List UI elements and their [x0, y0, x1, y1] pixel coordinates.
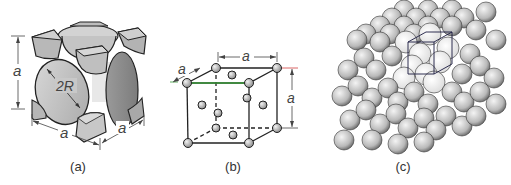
panel-b: a a a (b) [170, 0, 340, 185]
caption-b: (b) [225, 159, 241, 174]
caption-a: (a) [70, 159, 86, 174]
caption-c: (c) [395, 159, 410, 174]
edge-label-right: a [287, 90, 295, 106]
atoms [183, 64, 282, 148]
edge-label-front: a [60, 124, 68, 141]
panel-a: 2R a a a (a) [0, 0, 170, 185]
panel-c: (c) [330, 0, 511, 185]
edge-label-depth: a [178, 61, 186, 77]
edge-label-vertical: a [13, 62, 21, 79]
sphere-rows [332, 0, 506, 154]
reduced-sphere-unit-cell: a a a [170, 0, 340, 185]
edge-label-side: a [118, 119, 126, 136]
hard-sphere-unit-cell: 2R a a a [0, 0, 170, 185]
atom-aggregate [330, 0, 511, 185]
edge-label-top: a [242, 48, 250, 64]
radius-label: 2R [55, 78, 74, 94]
